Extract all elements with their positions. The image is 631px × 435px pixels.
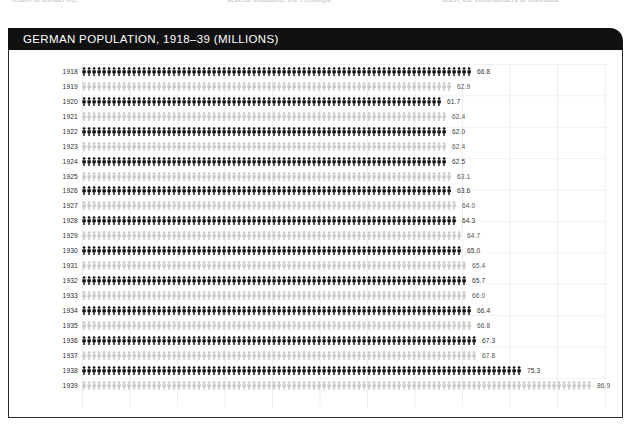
pictogram-bar [82,291,467,300]
row-year-label: 1933 [37,292,82,299]
row-year-label: 1927 [37,202,82,209]
row-bar-track: 67.8 [82,348,610,363]
pictogram-bar [82,67,472,76]
row-bar-track: 67.3 [82,333,610,348]
row-bar-track: 66.8 [82,64,610,79]
row-year-label: 1935 [37,322,82,329]
pictogram-bar [82,276,467,285]
row-value-label: 65.4 [472,262,485,269]
row-value-label: 62.4 [452,143,465,150]
row-value-label: 62.5 [452,158,465,165]
pictogram-bar [82,82,452,91]
row-year-label: 1924 [37,158,82,165]
row-value-label: 64.7 [467,232,480,239]
row-value-label: 62.4 [452,113,465,120]
chart-row: 192764.0 [37,198,610,213]
chart-row: 193165.4 [37,258,610,273]
pictogram-bar [82,246,462,255]
row-value-label: 66.4 [477,307,490,314]
pictogram-bar [82,127,447,136]
row-year-label: 1939 [37,382,82,389]
pictogram-bar [82,157,447,166]
row-bar-track: 65.0 [82,243,610,258]
chart-row: 192362.4 [37,139,610,154]
pictogram-bar [82,186,452,195]
row-value-label: 66.8 [477,68,490,75]
figure-header-bar: GERMAN POPULATION, 1918–39 (MILLIONS) [8,28,623,50]
pictogram-bar [82,172,452,181]
chart-row: 192061.7 [37,94,610,109]
pictogram-bar [82,216,457,225]
chart-rows: 191866.8191962.9192061.7192162.4192262.0… [37,64,610,407]
pictogram-bar [82,381,592,390]
page-body-text: return to civilian life. several thousan… [0,0,631,12]
figure-body: 191866.8191962.9192061.7192162.4192262.0… [8,50,623,418]
chart-row: 193566.8 [37,318,610,333]
chart-row: 191866.8 [37,64,610,79]
row-year-label: 1928 [37,217,82,224]
row-value-label: 64.3 [462,217,475,224]
row-value-label: 62.0 [452,128,465,135]
body-text-column-2: several thousand, the Freikorps [227,0,442,4]
row-bar-track: 63.6 [82,184,610,199]
chart-row: 192663.6 [37,184,610,199]
chart-row: 192563.1 [37,169,610,184]
pictogram-bar [82,351,477,360]
chart-plot-area: 191866.8191962.9192061.7192162.4192262.0… [37,64,610,407]
chart-row: 193986.9 [37,378,610,393]
row-year-label: 1918 [37,68,82,75]
row-bar-track: 65.7 [82,273,610,288]
chart-row: 193366.0 [37,288,610,303]
row-year-label: 1931 [37,262,82,269]
row-year-label: 1925 [37,173,82,180]
row-bar-track: 66.8 [82,318,610,333]
row-year-label: 1936 [37,337,82,344]
pictogram-bar [82,366,522,375]
row-bar-track: 65.4 [82,258,610,273]
row-value-label: 62.9 [457,83,470,90]
chart-row: 192162.4 [37,109,610,124]
row-bar-track: 62.4 [82,109,610,124]
chart-row: 192262.0 [37,124,610,139]
row-year-label: 1920 [37,98,82,105]
pictogram-bar [82,306,472,315]
body-text-column-1: return to civilian life. [0,0,227,4]
row-year-label: 1923 [37,143,82,150]
row-value-label: 63.6 [457,187,470,194]
chart-row: 193466.4 [37,303,610,318]
row-year-label: 1938 [37,367,82,374]
row-value-label: 65.7 [472,277,485,284]
pictogram-bar [82,231,462,240]
row-value-label: 63.1 [457,173,470,180]
row-year-label: 1922 [37,128,82,135]
chart-row: 193265.7 [37,273,610,288]
row-value-label: 75.3 [527,367,540,374]
pictogram-bar [82,261,467,270]
row-bar-track: 64.7 [82,228,610,243]
row-bar-track: 64.3 [82,213,610,228]
chart-row: 193667.3 [37,333,610,348]
row-value-label: 61.7 [447,98,460,105]
row-bar-track: 64.0 [82,198,610,213]
figure-title: GERMAN POPULATION, 1918–39 (MILLIONS) [8,33,279,45]
row-bar-track: 63.1 [82,169,610,184]
chart-row: 192864.3 [37,213,610,228]
row-value-label: 66.0 [472,292,485,299]
row-bar-track: 86.9 [82,378,610,393]
row-value-label: 64.0 [462,202,475,209]
chart-row: 193065.0 [37,243,610,258]
row-bar-track: 75.3 [82,363,610,378]
row-bar-track: 62.9 [82,79,610,94]
chart-row: 193767.8 [37,348,610,363]
row-bar-track: 62.5 [82,154,610,169]
chart-row: 191962.9 [37,79,610,94]
pictogram-bar [82,97,442,106]
row-year-label: 1926 [37,187,82,194]
row-year-label: 1932 [37,277,82,284]
body-text-column-3: often, the commanders of individual [442,0,631,4]
row-bar-track: 66.0 [82,288,610,303]
row-value-label: 67.8 [482,352,495,359]
row-bar-track: 61.7 [82,94,610,109]
row-bar-track: 62.0 [82,124,610,139]
row-year-label: 1921 [37,113,82,120]
